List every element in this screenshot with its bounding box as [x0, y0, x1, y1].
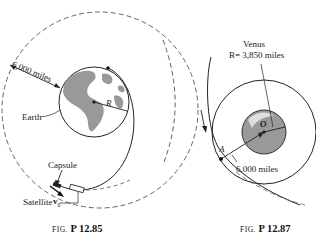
- point-a: [219, 157, 223, 161]
- center-o-label: O: [260, 120, 267, 129]
- satellite-label: Satellite: [23, 198, 53, 207]
- earth-label: Earth: [22, 113, 42, 122]
- figure-caption-1287: FIG. P 12.87: [240, 223, 291, 234]
- capsule-label: Capsule: [48, 161, 77, 170]
- point-a-label: A: [219, 145, 225, 154]
- venus-label: Venus: [243, 40, 265, 49]
- caption-prefix: FIG.: [52, 225, 68, 234]
- satellite-shape: [69, 184, 84, 192]
- caption-number: P 12.85: [70, 223, 102, 234]
- velocity-label: v0: [53, 197, 61, 208]
- figure-caption-1285: FIG. P 12.85: [52, 223, 103, 234]
- velocity-subscript: 0: [58, 202, 61, 208]
- caption-number: P 12.87: [258, 223, 290, 234]
- caption-prefix: FIG.: [240, 225, 256, 234]
- orbit-distance-label: 6,000 miles: [236, 165, 278, 174]
- venus-radius-label: R= 3,850 miles: [229, 51, 284, 60]
- dashed-arc: [163, 40, 175, 162]
- radius-label: R: [106, 99, 112, 108]
